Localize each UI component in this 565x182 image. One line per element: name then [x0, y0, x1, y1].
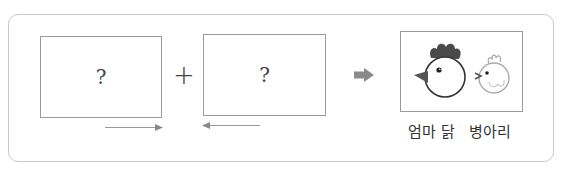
left-arrow-icon — [204, 125, 260, 126]
result-label: 엄마 닭 병아리 — [408, 120, 528, 141]
plus-operator: + — [173, 60, 195, 90]
question-mark: ? — [41, 65, 161, 89]
result-arrow-icon — [354, 67, 374, 86]
result-box — [400, 31, 523, 112]
unknown-box-2: ? — [203, 34, 326, 116]
hen-and-chick-icon — [401, 32, 521, 110]
question-mark: ? — [204, 63, 325, 87]
unknown-box-1: ? — [40, 36, 162, 118]
right-arrow-icon — [105, 127, 161, 128]
